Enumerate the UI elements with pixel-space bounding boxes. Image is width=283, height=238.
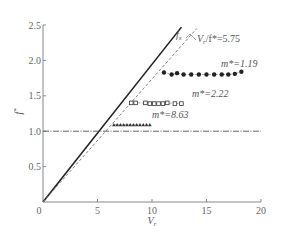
x-tick-label: 0 [37, 205, 42, 216]
circle-marker [233, 72, 237, 76]
x-tick-label: 15 [202, 205, 212, 216]
circle-marker [204, 72, 208, 76]
y-tick-label: 2.5 [29, 20, 42, 31]
circle-marker [226, 72, 230, 76]
square-marker [144, 101, 148, 105]
series-label-m3: m*=8.63 [152, 109, 188, 120]
circle-marker [197, 72, 201, 76]
y-tick-label: 0.5 [29, 161, 42, 172]
square-marker [180, 102, 184, 106]
series-label-m1: m*=1.19 [221, 58, 257, 69]
x-tick-label: 20 [256, 205, 266, 216]
square-marker [148, 102, 152, 106]
triangle-marker [145, 123, 149, 126]
square-marker [157, 102, 161, 106]
square-marker [173, 102, 177, 106]
circle-marker [175, 71, 179, 75]
series-label-m2: m*=2.22 [192, 88, 228, 99]
slope-annotation-rest: /f*=5.75 [206, 33, 240, 44]
square-marker [165, 101, 169, 105]
circle-marker [212, 72, 216, 76]
circle-marker [169, 72, 173, 76]
chart: 0.51.01.52.02.505101520Vrf* fsVr/f*=5.75… [0, 0, 283, 238]
circle-marker [220, 72, 224, 76]
x-axis-label-sub: r [154, 220, 157, 228]
x-tick-label: 5 [95, 205, 100, 216]
square-marker [152, 102, 156, 106]
circle-marker [162, 70, 166, 74]
circle-marker [181, 72, 185, 76]
axes: 0.51.01.52.02.505101520Vrf* [12, 20, 266, 229]
slope-annotation: Vr/f*=5.75 [197, 33, 240, 46]
circle-marker [189, 72, 193, 76]
circle-marker [239, 70, 243, 74]
square-marker [129, 101, 133, 105]
y-axis-label-sup: * [12, 108, 20, 112]
y-tick-label: 1.5 [29, 90, 42, 101]
y-axis-label: f* [12, 108, 24, 115]
y-tick-label: 2.0 [29, 55, 42, 66]
y-tick-label: 1.0 [29, 126, 42, 137]
square-marker [161, 102, 165, 106]
square-marker [134, 101, 138, 105]
fs-label-sub: s [179, 34, 182, 42]
triangle-marker [148, 123, 152, 126]
x-axis-label: Vr [148, 215, 157, 228]
